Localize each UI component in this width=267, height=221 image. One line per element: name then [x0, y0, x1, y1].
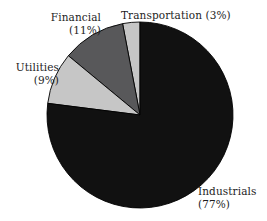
slice-label-industrials: Industrials (77%) [198, 185, 257, 211]
slice-label-utilities-line2: (9%) [16, 74, 59, 87]
slice-label-financial-line2: (11%) [51, 24, 101, 37]
slice-label-transportation-line1: Transportation (3%) [121, 9, 231, 22]
slice-label-utilities: Utilities (9%) [16, 61, 59, 87]
slice-label-financial-line1: Financial [51, 11, 101, 24]
slice-label-transportation: Transportation (3%) [121, 9, 231, 22]
pie-slice-group [47, 22, 233, 208]
slice-label-industrials-line2: (77%) [198, 198, 257, 211]
slice-label-utilities-line1: Utilities [16, 61, 59, 74]
slice-label-industrials-line1: Industrials [198, 185, 257, 198]
pie-chart-figure: Transportation (3%) Financial (11%) Util… [0, 0, 267, 221]
slice-label-financial: Financial (11%) [51, 11, 101, 37]
